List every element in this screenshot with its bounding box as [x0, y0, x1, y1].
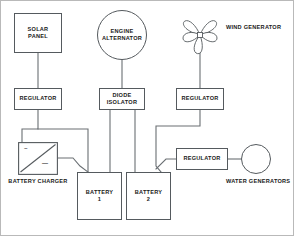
regulator-wind-label: REGULATOR [181, 95, 218, 102]
node-engine-alternator[interactable]: ENGINE ALTERNATOR [97, 10, 147, 60]
diode-isolator-label-line1: DIODE [113, 92, 132, 99]
engine-alternator-label-line2: ALTERNATOR [102, 35, 142, 42]
water-generators-label: WATER GENERATORS [226, 178, 286, 185]
battery-1-label-line1: BATTERY [86, 189, 114, 196]
battery-charger-label-line1: BATTERY [8, 178, 35, 184]
node-regulator-wind[interactable]: REGULATOR [176, 88, 224, 110]
node-wind-generator[interactable] [176, 11, 224, 59]
engine-alternator-label-line1: ENGINE [111, 28, 134, 35]
battery-2-label-line2: 2 [147, 196, 150, 203]
node-water-generators[interactable] [241, 144, 271, 174]
water-generators-label-line2: GENERATORS [249, 178, 290, 184]
dc-symbol-icon: — [42, 160, 48, 166]
turbine-hub [198, 33, 203, 38]
wind-generator-label: WIND GENERATOR [226, 24, 281, 31]
node-battery-charger[interactable]: ~ — [18, 142, 58, 175]
solar-panel-label-line1: SOLAR [28, 26, 49, 33]
battery-1-label-line2: 1 [98, 196, 101, 203]
battery-charger-label-line2: CHARGER [38, 178, 68, 184]
regulator-solar-label: REGULATOR [19, 95, 56, 102]
solar-panel-label-line2: PANEL [28, 33, 48, 40]
wind-generator-label-line2: GENERATOR [244, 24, 281, 30]
node-solar-panel[interactable]: SOLAR PANEL [14, 13, 62, 53]
node-battery-2[interactable]: BATTERY 2 [126, 172, 171, 220]
water-generators-label-line1: WATER [226, 178, 247, 184]
regulator-water-label: REGULATOR [183, 155, 220, 162]
node-battery-1[interactable]: BATTERY 1 [77, 172, 122, 220]
diode-isolator-label-line2: ISOLATOR [107, 99, 137, 106]
node-regulator-solar[interactable]: REGULATOR [14, 88, 62, 110]
wire-battery2-to-regulator-water [156, 159, 176, 169]
diagram-canvas: SOLAR PANEL ENGINE ALTERNATOR [0, 0, 294, 236]
battery-charger-label: BATTERY CHARGER [8, 178, 68, 185]
node-regulator-water[interactable]: REGULATOR [176, 148, 228, 170]
node-diode-isolator[interactable]: DIODE ISOLATOR [99, 88, 145, 110]
wire-regulator-solar-bus [22, 110, 38, 142]
wire-charger-to-battery1 [58, 158, 88, 172]
ac-symbol-icon: ~ [24, 145, 28, 151]
wind-generator-label-line1: WIND [226, 24, 242, 30]
battery-2-label-line1: BATTERY [135, 189, 163, 196]
